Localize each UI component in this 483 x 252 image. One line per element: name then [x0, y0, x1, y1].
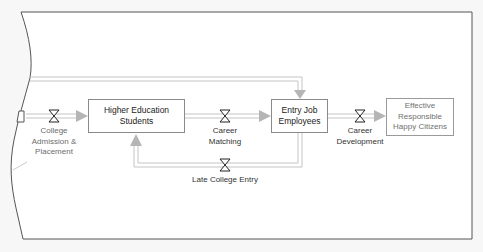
stock-label: Effective Responsible Happy Citizens [393, 101, 447, 133]
flow-label-career-development: Career Development [336, 126, 383, 147]
flow-label-career-matching: Career Matching [209, 126, 241, 147]
flow-label-line: Late College Entry [192, 175, 258, 186]
flow-label-line: Admission & [32, 137, 76, 148]
diagram-canvas: Higher Education Students Entry Job Empl… [0, 0, 483, 252]
stock-label-line: Students [104, 116, 169, 127]
stock-label-line: Effective [393, 101, 447, 112]
stock-label-line: Responsible [393, 112, 447, 123]
stock-label: Entry Job Employees [278, 105, 320, 127]
flow-label-line: Development [336, 137, 383, 148]
stock-entry-job-employees[interactable]: Entry Job Employees [271, 99, 328, 133]
flow-label-line: Career [209, 126, 241, 137]
stock-label-line: Higher Education [104, 105, 169, 116]
stock-label-line: Employees [278, 116, 320, 127]
stock-effective-responsible-happy-citizens[interactable]: Effective Responsible Happy Citizens [386, 98, 454, 136]
stock-label-line: Entry Job [278, 105, 320, 116]
flow-label-line: Placement [32, 147, 76, 158]
flow-label-line: Career [336, 126, 383, 137]
flow-label-college-admission-placement: College Admission & Placement [32, 126, 76, 158]
flow-label-late-college-entry: Late College Entry [192, 175, 258, 186]
stock-label-line: Happy Citizens [393, 122, 447, 133]
stock-label: Higher Education Students [104, 105, 169, 127]
flow-label-line: Matching [209, 137, 241, 148]
source-marker-icon [17, 111, 24, 122]
flow-label-line: College [32, 126, 76, 137]
stock-higher-education-students[interactable]: Higher Education Students [88, 99, 185, 133]
